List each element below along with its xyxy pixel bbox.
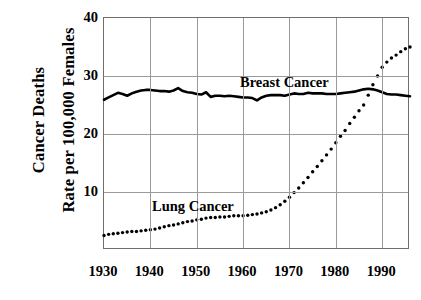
plot-area <box>103 17 409 249</box>
x-axis-tick-labels: 1930194019501960197019801990 <box>0 264 421 284</box>
gridline-vertical <box>382 18 383 248</box>
y-axis-tick-label: 30 <box>72 68 98 82</box>
y-axis-tick-label: 10 <box>72 184 98 198</box>
series-label-breast-cancer: Breast Cancer <box>240 74 329 91</box>
y-axis-tick-label: 20 <box>72 126 98 140</box>
y-axis-title-line1: Cancer Deaths <box>29 5 49 235</box>
gridline-vertical <box>243 18 244 248</box>
x-axis-tick-label: 1990 <box>351 264 411 279</box>
series-label-lung-cancer: Lung Cancer <box>152 198 234 215</box>
chart-figure: Cancer Deaths Rate per 100,000 Females 1… <box>0 0 421 300</box>
gridline-vertical <box>289 18 290 248</box>
gridline-vertical <box>336 18 337 248</box>
y-axis-tick-labels: 10203040 <box>70 0 98 300</box>
y-axis-tick-label: 40 <box>72 10 98 24</box>
gridline-vertical <box>150 18 151 248</box>
